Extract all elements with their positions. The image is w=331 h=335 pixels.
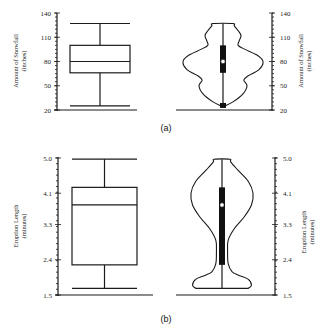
- panel-a-left-ylabel-units: (inches): [20, 51, 28, 72]
- panel-b-caption: (b): [161, 314, 172, 324]
- panel-a-right-ylabel: Amount of Snowfall: [297, 34, 304, 88]
- panel-a-caption: (a): [161, 123, 172, 133]
- panel-a-violin-min-marker: [220, 103, 226, 108]
- panel-a-right-tick-label: 20: [280, 107, 288, 115]
- panel-a-left-tick-label: 140: [41, 10, 52, 18]
- panel-b-right-ylabel: Eruption Length: [300, 210, 307, 254]
- panel-b-left-tick-label: 5.0: [43, 155, 52, 163]
- panel-a-box-iqr-box: [70, 45, 130, 72]
- panel-b-left-tick-label: 3.3: [43, 221, 52, 229]
- panel-a-left-tick-label: 20: [44, 107, 52, 115]
- panel-a-right-tick-label: 80: [280, 58, 288, 66]
- panel-a-right-tick-label: 140: [280, 10, 291, 18]
- panel-b-left-tick-label: 1.5: [43, 292, 52, 300]
- panel-b: 1.52.43.34.15.0 Eruption Length (minutes…: [12, 155, 316, 325]
- panel-b-violin-iqr-bar: [219, 187, 225, 265]
- panel-b-right-tick-label: 2.4: [283, 256, 292, 264]
- panel-b-right-tick-label: 3.3: [283, 221, 292, 229]
- panel-a-right-ylabel-units: (inches): [305, 51, 313, 72]
- panel-b-right-ylabel-units: (minutes): [308, 220, 316, 245]
- panel-b-left-tick-label: 2.4: [43, 256, 52, 264]
- panel-a-left-ylabel: Amount of Snowfall: [12, 34, 19, 88]
- panel-a-left-tick-label: 50: [44, 82, 52, 90]
- panel-b-right-tick-label: 4.1: [283, 190, 292, 198]
- panel-b-left-tick-label: 4.1: [43, 190, 52, 198]
- figure: 205080110140 Amount of Snowfall (inches)…: [0, 0, 331, 335]
- panel-a: 205080110140 Amount of Snowfall (inches)…: [12, 10, 313, 134]
- panel-a-left-tick-label: 110: [41, 34, 52, 42]
- panel-a-right-tick-label: 50: [280, 82, 288, 90]
- panel-b-left-ylabel: Eruption Length: [12, 204, 19, 248]
- panel-a-left-tick-label: 80: [44, 58, 52, 66]
- panel-b-right-tick-label: 1.5: [283, 292, 292, 300]
- panel-a-violin-median-dot: [221, 59, 225, 63]
- panel-b-left-ylabel-units: (minutes): [20, 214, 28, 239]
- panel-a-right-tick-label: 110: [280, 34, 291, 42]
- panel-b-right-tick-label: 5.0: [283, 155, 292, 163]
- panel-b-box-iqr-box: [72, 187, 137, 265]
- panel-b-violin-median-dot: [220, 203, 224, 207]
